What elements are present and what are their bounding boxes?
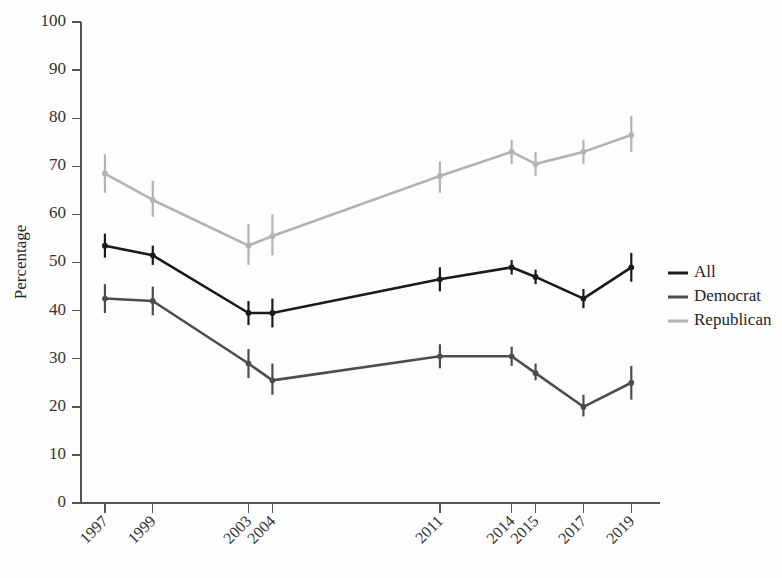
data-point <box>102 296 108 302</box>
y-axis-group: 0102030405060708090100 Percentage <box>11 11 81 511</box>
x-tick-label: 1999 <box>124 512 159 547</box>
x-axis-group: 199719992003200420112014201520172019 <box>76 503 660 547</box>
data-point <box>246 361 252 367</box>
y-tick-label: 20 <box>49 396 66 415</box>
data-point <box>102 171 108 177</box>
data-point <box>533 161 539 167</box>
data-point <box>533 274 539 280</box>
series-republican <box>102 116 634 265</box>
data-point <box>509 353 515 359</box>
data-point <box>270 377 276 383</box>
data-point <box>628 380 634 386</box>
data-point <box>270 310 276 316</box>
series-democrat <box>102 284 634 416</box>
data-point <box>437 353 443 359</box>
y-tick-label: 90 <box>49 59 66 78</box>
data-point <box>628 264 634 270</box>
x-tick-label: 2011 <box>412 512 446 546</box>
chart-page: 0102030405060708090100 Percentage 199719… <box>0 0 782 578</box>
y-tick-label: 30 <box>49 348 66 367</box>
legend-label-all: All <box>694 262 716 281</box>
x-tick-label: 1997 <box>76 512 111 547</box>
data-point <box>437 276 443 282</box>
legend-label-democrat: Democrat <box>694 286 761 305</box>
data-point <box>246 310 252 316</box>
data-point <box>246 243 252 249</box>
x-tick-group: 199719992003200420112014201520172019 <box>76 503 637 547</box>
y-tick-label: 70 <box>49 155 66 174</box>
y-tick-label: 100 <box>41 11 67 30</box>
y-axis-title: Percentage <box>11 225 30 300</box>
line-chart: 0102030405060708090100 Percentage 199719… <box>0 0 782 578</box>
data-point <box>509 264 515 270</box>
series-group <box>102 116 634 417</box>
data-point <box>270 233 276 239</box>
x-tick-label: 2004 <box>244 512 279 547</box>
chart-legend: AllDemocratRepublican <box>668 262 772 329</box>
data-point <box>102 243 108 249</box>
legend-label-republican: Republican <box>694 310 772 329</box>
x-tick-label: 2015 <box>507 512 542 547</box>
data-point <box>628 132 634 138</box>
data-point <box>437 173 443 179</box>
y-tick-label: 50 <box>49 251 66 270</box>
series-line <box>105 246 631 313</box>
series-all <box>102 234 634 328</box>
series-line <box>105 299 631 407</box>
data-point <box>150 197 156 203</box>
data-point <box>509 149 515 155</box>
data-point <box>581 149 587 155</box>
y-tick-label: 10 <box>49 444 66 463</box>
y-tick-group: 0102030405060708090100 <box>41 11 82 511</box>
data-point <box>581 404 587 410</box>
y-tick-label: 0 <box>58 492 67 511</box>
x-tick-label: 2017 <box>555 512 590 547</box>
y-tick-label: 60 <box>49 203 66 222</box>
data-point <box>581 296 587 302</box>
x-tick-label: 2019 <box>603 512 638 547</box>
data-point <box>533 370 539 376</box>
data-point <box>150 252 156 258</box>
y-tick-label: 40 <box>49 300 66 319</box>
y-tick-label: 80 <box>49 107 66 126</box>
data-point <box>150 298 156 304</box>
series-line <box>105 135 631 246</box>
